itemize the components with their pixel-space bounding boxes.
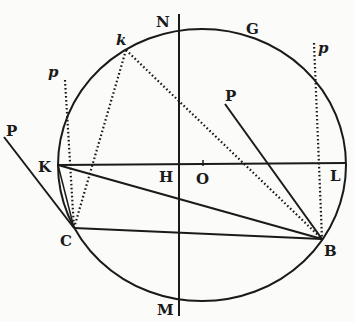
label-H: H: [159, 168, 173, 186]
dotted-pB: [314, 43, 322, 239]
label-p-left: p: [48, 63, 59, 81]
line-KB: [58, 165, 322, 239]
label-p-right: p: [318, 39, 329, 57]
line-CB: [74, 228, 322, 239]
label-P-outer: P: [6, 122, 17, 140]
line-KL: [58, 163, 346, 165]
label-M: M: [157, 301, 174, 319]
label-O: O: [196, 170, 209, 188]
tangent-PC: [4, 137, 74, 228]
label-B: B: [324, 242, 337, 260]
geometry-figure: N G k p p P P K H O L C B M: [0, 0, 355, 322]
line-PB: [225, 104, 322, 239]
label-C: C: [60, 232, 72, 250]
dotted-pC: [65, 80, 74, 228]
label-K: K: [38, 158, 52, 176]
dotted-kC: [74, 50, 126, 228]
label-G: G: [246, 20, 259, 38]
label-N: N: [156, 13, 170, 31]
label-P-inner: P: [225, 87, 236, 105]
label-k: k: [116, 31, 126, 49]
label-L: L: [330, 167, 341, 185]
